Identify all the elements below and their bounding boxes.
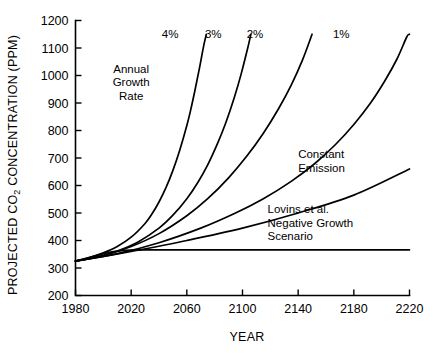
series-label-2pct: 2% bbox=[247, 28, 264, 40]
annotation-lovins-scenario: Lovins et al.Negative GrowthScenario bbox=[268, 203, 354, 242]
annotation-line: Scenario bbox=[268, 230, 313, 242]
annotation-line: Negative Growth bbox=[268, 217, 354, 229]
x-tick-label: 2020 bbox=[117, 302, 145, 316]
x-tick-label: 2220 bbox=[396, 302, 424, 316]
x-tick-label: 2100 bbox=[229, 302, 257, 316]
y-tick-label: 1000 bbox=[41, 69, 69, 83]
x-axis-ticks bbox=[76, 290, 410, 296]
y-tick-label: 1200 bbox=[41, 14, 69, 28]
y-axis-title-main: PROJECTED CO bbox=[6, 195, 20, 295]
co2-projection-chart: 200300400500600700800900100011001200 198… bbox=[0, 0, 438, 354]
x-tick-label: 2140 bbox=[284, 302, 312, 316]
x-axis-tick-labels: 1980202020602100214021802220 bbox=[62, 302, 424, 316]
y-axis-title: PROJECTED CO2 CONCENTRATION (PPM) bbox=[6, 35, 22, 295]
axis-lines bbox=[76, 21, 410, 296]
y-axis-title-group: PROJECTED CO2 CONCENTRATION (PPM) bbox=[6, 35, 22, 295]
y-tick-label: 900 bbox=[48, 97, 69, 111]
y-tick-label: 800 bbox=[48, 124, 69, 138]
annotation-line: Annual bbox=[113, 63, 149, 75]
y-tick-label: 500 bbox=[48, 207, 69, 221]
annotation-annual-growth-rate: AnnualGrowthRate bbox=[113, 63, 150, 102]
series-label-4pct: 4% bbox=[162, 28, 179, 40]
y-tick-label: 600 bbox=[48, 179, 69, 193]
chart-svg: 200300400500600700800900100011001200 198… bbox=[0, 0, 438, 354]
y-axis-tick-labels: 200300400500600700800900100011001200 bbox=[41, 14, 69, 303]
y-axis-ticks bbox=[76, 21, 82, 296]
y-tick-label: 400 bbox=[48, 234, 69, 248]
series-label-1pct: 1% bbox=[333, 28, 350, 40]
x-tick-label: 2180 bbox=[340, 302, 368, 316]
annotation-line: Constant bbox=[298, 148, 345, 160]
annotation-constant-emission: ConstantEmission bbox=[298, 148, 345, 174]
annotation-line: Rate bbox=[119, 90, 143, 102]
y-axis-title-rest: CONCENTRATION (PPM) bbox=[6, 35, 20, 189]
series-labels: 4%3%2%1% bbox=[162, 28, 350, 40]
annotation-line: Emission bbox=[298, 162, 345, 174]
x-tick-label: 2060 bbox=[173, 302, 201, 316]
annotation-line: Lovins et al. bbox=[268, 203, 329, 215]
y-tick-label: 1100 bbox=[42, 42, 69, 56]
axes bbox=[76, 21, 410, 296]
series-curve-1 bbox=[76, 34, 251, 261]
y-tick-label: 300 bbox=[48, 262, 69, 276]
x-tick-label: 1980 bbox=[62, 302, 90, 316]
series-label-3pct: 3% bbox=[205, 28, 222, 40]
annotation-line: Growth bbox=[113, 76, 150, 88]
x-axis-title: YEAR bbox=[230, 330, 265, 344]
y-tick-label: 700 bbox=[48, 152, 69, 166]
